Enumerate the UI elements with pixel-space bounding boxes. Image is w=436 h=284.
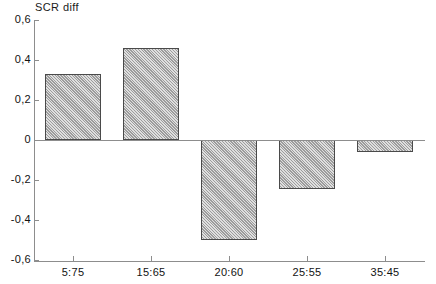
y-tick-mark <box>34 60 39 61</box>
y-tick-label-wrap: -0,2 <box>0 173 31 185</box>
zero-reference-line <box>34 140 425 141</box>
y-tick-label: 0,6 <box>15 13 31 25</box>
y-tick-mark <box>34 100 39 101</box>
x-tick-mark <box>229 256 230 262</box>
y-tick-label: 0,2 <box>15 93 31 105</box>
y-tick-mark <box>34 180 39 181</box>
y-tick-label-wrap: 0 <box>0 133 31 145</box>
y-tick-label: -0,6 <box>11 253 31 265</box>
bar-chart: SCR diff 0,60,40,20-0,2-0,4-0,6 5:7515:6… <box>0 0 436 284</box>
bar <box>201 140 257 240</box>
chart-title: SCR diff <box>35 1 79 13</box>
y-tick-label-wrap: -0,4 <box>0 213 31 225</box>
y-tick-label: 0,4 <box>15 53 31 65</box>
x-tick-mark <box>307 256 308 262</box>
y-tick-mark <box>34 20 39 21</box>
x-tick-label: 20:60 <box>214 266 243 278</box>
x-tick-label: 35:45 <box>370 266 399 278</box>
bar <box>357 140 413 152</box>
y-tick-label-wrap: 0,6 <box>0 13 31 25</box>
bar <box>45 74 101 140</box>
y-tick-mark <box>34 220 39 221</box>
y-tick-label-wrap: 0,2 <box>0 93 31 105</box>
y-tick-mark <box>34 260 39 261</box>
y-tick-label: -0,2 <box>11 173 31 185</box>
y-tick-label-wrap: -0,6 <box>0 253 31 265</box>
y-tick-label: 0 <box>25 133 31 145</box>
bar <box>279 140 335 189</box>
x-tick-mark <box>73 256 74 262</box>
y-tick-label-wrap: 0,4 <box>0 53 31 65</box>
x-tick-label: 5:75 <box>62 266 85 278</box>
bar <box>123 48 179 140</box>
x-tick-label: 25:55 <box>292 266 321 278</box>
x-tick-mark <box>385 256 386 262</box>
x-tick-mark <box>151 256 152 262</box>
y-axis-line <box>34 20 35 262</box>
x-tick-label: 15:65 <box>136 266 165 278</box>
y-tick-label: -0,4 <box>11 213 31 225</box>
